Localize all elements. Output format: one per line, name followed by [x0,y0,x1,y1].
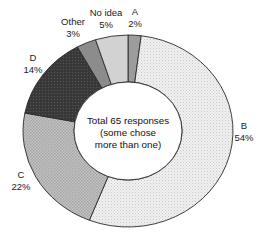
slice-value-d: 14% [23,64,43,75]
slice-value-other: 3% [66,28,80,39]
donut-chart: A2%B54%C22%D14%Other3%No idea5% Total 65… [0,0,265,239]
center-label-line-3: more than one) [95,139,161,150]
slice-value-b: 54% [234,132,254,143]
slice-label-no-idea: No idea [90,7,123,18]
slice-value-a: 2% [128,18,142,29]
center-label-line-2: (some chose [100,127,157,138]
slice-label-other: Other [61,16,85,27]
slice-label-d: D [30,52,37,63]
slice-label-b: B [241,120,247,131]
center-label-line-1: Total 65 responses [87,115,169,126]
slice-value-c: 22% [11,181,31,192]
slice-label-c: C [18,169,25,180]
slice-value-no-idea: 5% [99,19,113,30]
slice-label-a: A [132,6,139,17]
